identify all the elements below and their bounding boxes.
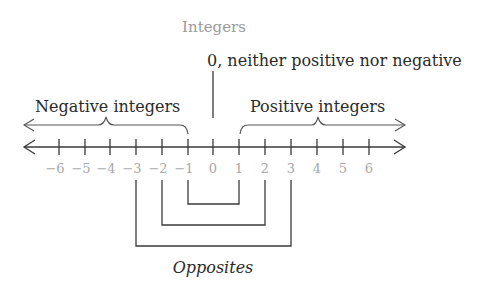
tick-label: −4 [96,161,115,176]
tick-label: −3 [122,161,141,176]
tick-label: 3 [287,161,295,176]
tick-labels: −6 −5 −4 −3 −2 −1 0 1 2 3 4 5 6 [45,161,373,176]
tick-label: −1 [174,161,193,176]
tick-label: −6 [45,161,64,176]
negative-integers-label: Negative integers [35,97,180,116]
bracket-pair-3 [136,180,291,246]
opposites-label: Opposites [173,258,254,277]
tick-label: 1 [235,161,243,176]
tick-label: 5 [339,161,347,176]
negative-brace-arrow [24,117,188,134]
opposites-brackets [136,180,291,246]
integers-diagram: Integers 0, neither positive nor negativ… [0,0,482,295]
zero-label: 0, neither positive nor negative [207,51,462,70]
tick-label: −2 [148,161,167,176]
number-line: −6 −5 −4 −3 −2 −1 0 1 2 3 4 5 6 [24,139,405,176]
tick-label: 0 [209,161,217,176]
bracket-pair-1 [188,180,239,204]
tick-label: 6 [365,161,373,176]
positive-brace-arrow [240,117,405,134]
bracket-pair-2 [162,180,265,225]
tick-label: −5 [71,161,90,176]
positive-integers-label: Positive integers [250,97,385,116]
tick-label: 4 [313,161,321,176]
tick-label: 2 [261,161,269,176]
diagram-title: Integers [182,18,246,36]
